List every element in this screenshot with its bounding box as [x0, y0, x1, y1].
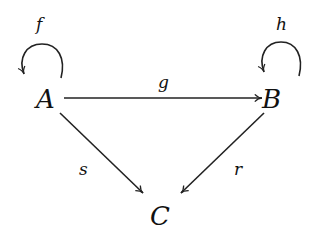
loop-arrow-h	[262, 42, 300, 76]
arrow-r	[181, 113, 264, 193]
loop-arrow-f	[22, 44, 62, 78]
node-a: A	[34, 84, 55, 114]
node-b: B	[261, 84, 281, 114]
node-c: C	[150, 201, 170, 231]
commutative-diagram: A B C f h g s r	[0, 0, 320, 245]
edge-label-g: g	[158, 72, 169, 92]
edge-label-r: r	[234, 159, 243, 179]
edge-label-h: h	[276, 14, 287, 34]
edge-label-f: f	[34, 14, 45, 34]
arrow-s	[60, 113, 143, 193]
edge-label-s: s	[79, 159, 88, 179]
